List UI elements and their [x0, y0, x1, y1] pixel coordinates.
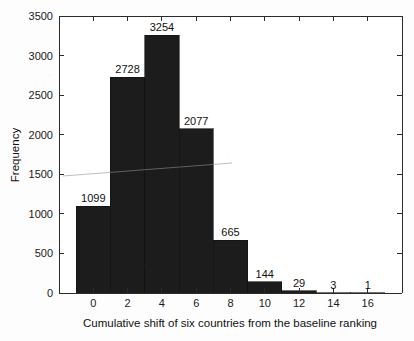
x-axis-title: Cumulative shift of six countries from t…	[83, 317, 377, 329]
histogram-bar	[213, 240, 247, 293]
y-axis-title: Frequency	[9, 128, 21, 183]
y-tick-labels: 0500100015002000250030003500	[29, 10, 53, 299]
y-tick-label: 3000	[29, 50, 53, 62]
x-tick-labels: 0246810121416	[90, 297, 374, 309]
y-tick-label: 3500	[29, 10, 53, 22]
x-tick-label: 4	[159, 297, 165, 309]
bar-value-label: 29	[293, 277, 305, 289]
bar-value-label: 144	[256, 268, 274, 280]
y-tick-label: 0	[47, 287, 53, 299]
x-tick-label: 0	[90, 297, 96, 309]
histogram-bar	[76, 206, 110, 293]
x-tick-label: 14	[327, 297, 339, 309]
histogram-bar	[145, 35, 179, 293]
histogram-plot: 0500100015002000250030003500 02468101214…	[0, 0, 414, 341]
y-tick-label: 1500	[29, 168, 53, 180]
histogram-figure: 0500100015002000250030003500 02468101214…	[0, 0, 414, 341]
bar-value-label: 2728	[115, 63, 139, 75]
y-tick-label: 2500	[29, 89, 53, 101]
x-tick-label: 12	[293, 297, 305, 309]
bar-value-label: 1099	[81, 192, 105, 204]
bar-value-label: 3254	[150, 21, 174, 33]
y-tick-label: 1000	[29, 208, 53, 220]
bar-value-label: 665	[221, 226, 239, 238]
histogram-bar	[179, 129, 213, 293]
bar-value-label: 3	[330, 279, 336, 291]
bar-value-label: 1	[365, 279, 371, 291]
x-tick-label: 16	[362, 297, 374, 309]
histogram-bar	[110, 77, 144, 293]
x-tick-label: 8	[227, 297, 233, 309]
x-tick-label: 6	[193, 297, 199, 309]
x-tick-label: 2	[125, 297, 131, 309]
y-tick-label: 500	[35, 247, 53, 259]
x-tick-label: 10	[259, 297, 271, 309]
y-tick-label: 2000	[29, 129, 53, 141]
bar-value-label: 2077	[184, 115, 208, 127]
